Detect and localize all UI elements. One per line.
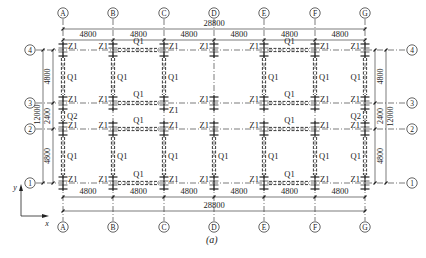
dim-right-span: 2400 <box>376 108 385 124</box>
wall-label: Q1 <box>67 151 77 161</box>
wall-label: Q1 <box>268 72 278 82</box>
column-label: Z1 <box>200 120 209 130</box>
dim-right-span: 4800 <box>376 69 385 85</box>
axis-bubble-top-C: C <box>161 9 166 18</box>
axis-bubble-right-2: 2 <box>410 125 414 134</box>
axis-bubble-bottom-C: C <box>161 223 166 232</box>
column-label: Z1 <box>320 41 329 51</box>
wall-label: Q1 <box>133 89 143 99</box>
coord-y-label: y <box>12 183 17 192</box>
dim-bottom-span: 4800 <box>281 186 298 196</box>
column-label: Z1 <box>250 94 259 104</box>
column-label: Z1 <box>99 120 108 130</box>
wall-label: Q1 <box>133 115 143 125</box>
dim-left-span: 4800 <box>43 69 52 85</box>
dim-top-span: 4800 <box>231 29 248 39</box>
wall-label: Q1 <box>133 169 143 179</box>
axis-bubble-bottom-E: E <box>262 223 267 232</box>
wall-label: Q1 <box>284 115 294 125</box>
dim-right-span: 4800 <box>376 148 385 164</box>
dim-bottom-total: 28800 <box>203 200 224 210</box>
dim-left-span: 2400 <box>43 108 52 124</box>
column-label: Z1 <box>200 94 209 104</box>
axis-bubble-top-D: D <box>211 9 217 18</box>
wall-label: Q1 <box>117 72 127 82</box>
dim-top-span: 4800 <box>130 29 147 39</box>
dim-bottom-span: 4800 <box>181 186 198 196</box>
x-arrowhead <box>42 214 49 218</box>
axis-bubble-bottom-F: F <box>313 223 317 232</box>
wall-label: Q1 <box>319 151 329 161</box>
wall-label: Q1 <box>67 72 77 82</box>
column-label: Z1 <box>320 94 329 104</box>
column-label: Z1 <box>68 120 77 130</box>
axis-bubble-top-E: E <box>262 9 267 18</box>
dim-bottom-span: 4800 <box>231 186 248 196</box>
dim-top-span: 4800 <box>281 29 298 39</box>
column-label: Z1 <box>351 41 360 51</box>
wall-label: Q1 <box>284 169 294 179</box>
axis-bubble-top-F: F <box>313 9 317 18</box>
dim-left-total: 12000 <box>33 105 42 125</box>
column-label: Z1 <box>68 41 77 51</box>
axis-bubble-bottom-A: A <box>60 223 66 232</box>
column-label: Z1 <box>99 94 108 104</box>
wall-label: Q1 <box>218 151 228 161</box>
column-label: Z1 <box>68 94 77 104</box>
axis-bubble-left-3: 3 <box>28 99 32 108</box>
figure-caption: (a) <box>206 234 218 245</box>
axis-bubble-right-1: 1 <box>410 179 414 188</box>
column-label: Z1 <box>169 41 178 51</box>
column-label: Z1 <box>200 41 209 51</box>
dim-bottom-span: 4800 <box>332 186 349 196</box>
column-label: Z1 <box>68 174 77 184</box>
dim-top-total: 28800 <box>203 18 224 28</box>
column-label: Z1 <box>250 174 259 184</box>
wall-label: Q1 <box>284 89 294 99</box>
column-label: Z1 <box>200 174 209 184</box>
dim-left-span: 4800 <box>43 148 52 164</box>
column-label: Z1 <box>99 174 108 184</box>
axis-bubble-top-B: B <box>110 9 115 18</box>
dim-top-span: 4800 <box>332 29 349 39</box>
axis-bubble-bottom-D: D <box>211 223 217 232</box>
dim-bottom-span: 4800 <box>80 186 97 196</box>
wall-label: Q1 <box>319 72 329 82</box>
axis-bubble-left-4: 4 <box>28 46 32 55</box>
axis-bubble-left-2: 2 <box>28 125 32 134</box>
axis-bubble-bottom-G: G <box>362 223 368 232</box>
axis-bubble-bottom-B: B <box>110 223 115 232</box>
column-label: Z1 <box>351 94 360 104</box>
wall-label: Q1 <box>351 72 361 82</box>
wall-label: Q1 <box>268 151 278 161</box>
y-arrowhead <box>19 184 23 191</box>
axis-bubble-top-A: A <box>60 9 66 18</box>
dim-bottom-span: 4800 <box>130 186 147 196</box>
axis-bubble-right-4: 4 <box>410 46 414 55</box>
coordinate-axes-icon: yx <box>12 183 49 228</box>
dim-right-total: 12000 <box>386 107 395 127</box>
wall-label: Q1 <box>168 151 178 161</box>
column-label: Z1 <box>320 120 329 130</box>
wall-label: Q1 <box>168 72 178 82</box>
column-label: Z1 <box>169 174 178 184</box>
column-label: Z1 <box>351 174 360 184</box>
column-label: Z1 <box>169 105 178 115</box>
column-label: Z1 <box>250 120 259 130</box>
dim-top-span: 4800 <box>80 29 97 39</box>
column-label: Z1 <box>99 41 108 51</box>
axis-bubble-right-3: 3 <box>410 99 414 108</box>
column-label: Z1 <box>351 120 360 130</box>
coord-x-label: x <box>44 219 49 228</box>
column-label: Z1 <box>250 41 259 51</box>
column-label: Z1 <box>320 174 329 184</box>
axis-bubble-left-1: 1 <box>28 179 32 188</box>
dim-top-span: 4800 <box>181 29 198 39</box>
structural-floor-plan: Q1Q1Q1Q1Q1Q1Q1Q1Q1Q1Q1Q1Q1Q1Q2Q2Q1Q1Q1Q1… <box>0 0 426 258</box>
wall-label: Q1 <box>117 151 127 161</box>
wall-label: Q1 <box>351 151 361 161</box>
axis-bubble-top-G: G <box>362 9 368 18</box>
column-label: Z1 <box>169 120 178 130</box>
